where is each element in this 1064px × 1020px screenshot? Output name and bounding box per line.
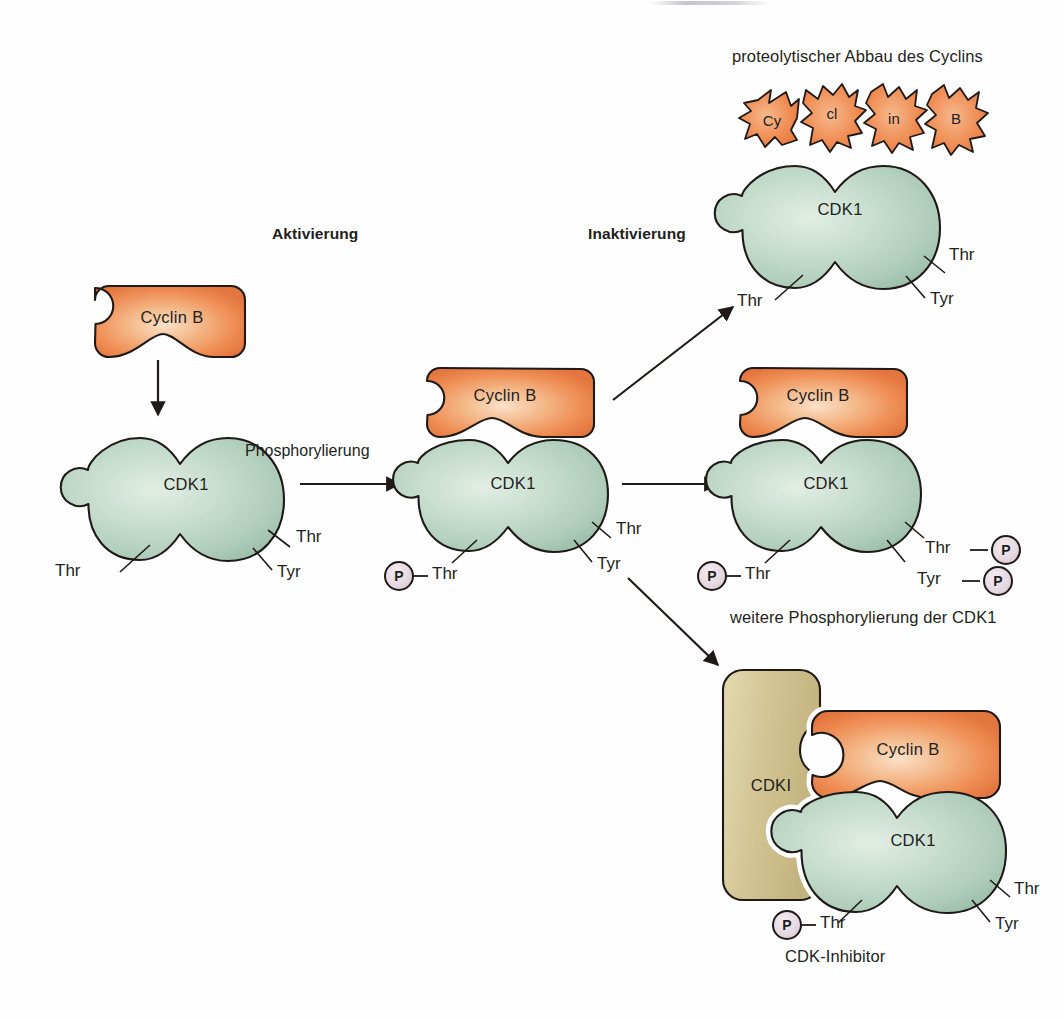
- label-degraded-cdk1: CDK1: [817, 201, 862, 218]
- cyclin-fragment-2: in: [888, 111, 900, 126]
- section-label-inactivation: Inaktivierung: [588, 226, 686, 242]
- caption-further-phosphorylation: weitere Phosphorylierung der CDK1: [730, 609, 997, 626]
- arrow-label-phosphorylation: Phosphorylierung: [245, 443, 370, 459]
- diagram-graphics: [0, 0, 1064, 1020]
- residue-thr-degraded-left: Thr: [737, 292, 763, 309]
- label-hyperphos-cdk1: CDK1: [803, 475, 848, 492]
- residue-tyr-active: Tyr: [597, 555, 621, 572]
- cyclin-fragment-0: Cy: [763, 113, 782, 128]
- label-free-cdk1: CDK1: [163, 476, 208, 493]
- label-free-cyclin-b: Cyclin B: [141, 309, 204, 326]
- cyclin-fragment-1: cl: [826, 106, 837, 121]
- label-inhibited-cdk1: CDK1: [890, 832, 935, 849]
- residue-thr-degraded-right: Thr: [949, 246, 975, 263]
- phosphate-symbol-tyr-hyper: P: [993, 574, 1002, 588]
- cyclin-fragment-3: B: [951, 111, 961, 126]
- section-label-activation: Aktivierung: [272, 226, 358, 242]
- phosphate-symbol-thr-hyper: P: [1001, 543, 1010, 557]
- label-inhibited-cyclin-b: Cyclin B: [877, 741, 940, 758]
- label-active-cdk1: CDK1: [490, 475, 535, 492]
- residue-thr-active-left: Thr: [432, 565, 458, 582]
- degraded-cdk1-shape: [715, 166, 945, 300]
- arrow-to-inhibition: [628, 578, 718, 665]
- diagram-canvas: Aktivierung Inaktivierung proteolytische…: [0, 0, 1064, 1020]
- phosphate-symbol-middle: P: [394, 569, 403, 583]
- residue-thr-active-right: Thr: [616, 520, 642, 537]
- hyperphos-cdk1: [706, 440, 924, 563]
- arrow-to-degradation: [613, 307, 733, 400]
- label-active-cyclin-b: Cyclin B: [474, 387, 537, 404]
- residue-thr-hyper-left: Thr: [745, 565, 771, 582]
- residue-thr-hyper-right: Thr: [925, 539, 951, 556]
- residue-tyr-hyper: Tyr: [917, 570, 941, 587]
- active-complex-cdk1: [393, 440, 611, 563]
- residue-thr-inhibited-right: Thr: [1014, 880, 1040, 897]
- label-cdki: CDKI: [751, 777, 792, 794]
- residue-thr-free-cdk1-left: Thr: [55, 562, 81, 579]
- residue-thr-inhibited-left: Thr: [820, 914, 846, 931]
- residue-thr-free-cdk1-right: Thr: [296, 528, 322, 545]
- inhibited-cdk1: [771, 792, 1010, 923]
- label-hyperphos-cyclin-b: Cyclin B: [787, 387, 850, 404]
- residue-tyr-free-cdk1: Tyr: [277, 563, 301, 580]
- residue-tyr-inhibited: Tyr: [995, 915, 1019, 932]
- residue-tyr-degraded: Tyr: [930, 290, 954, 307]
- caption-cdk-inhibitor: CDK-Inhibitor: [785, 948, 885, 965]
- phosphate-symbol-inhibited: P: [782, 918, 791, 932]
- phosphate-symbol-hyper-left: P: [707, 569, 716, 583]
- caption-proteolysis: proteolytischer Abbau des Cyclins: [732, 48, 983, 65]
